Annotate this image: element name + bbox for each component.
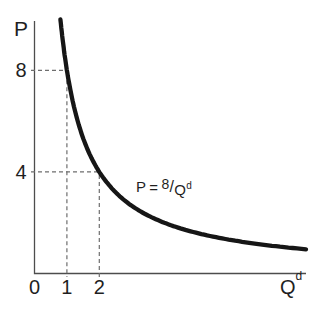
equation-equals-sign: = bbox=[149, 179, 158, 196]
equation-q-base: Q bbox=[174, 181, 186, 198]
equation-lhs: P bbox=[136, 178, 146, 195]
equation-q-superscript: d bbox=[186, 180, 192, 191]
x-tick-label-0: 0 bbox=[29, 276, 40, 299]
x-tick-label-2: 2 bbox=[94, 276, 105, 299]
x-axis-label-base: Q bbox=[280, 276, 296, 298]
x-axis-label-superscript: d bbox=[296, 269, 303, 283]
y-tick-label-4: 4 bbox=[15, 160, 26, 183]
y-axis-label: P bbox=[14, 17, 28, 41]
curve-equation-annotation: P=8/Qd bbox=[136, 178, 192, 196]
y-tick-label-8: 8 bbox=[15, 59, 26, 82]
plot-area bbox=[0, 0, 319, 312]
demand-curve-figure: P 4 8 0 1 2 Qd P=8/Qd bbox=[0, 0, 319, 312]
x-axis-label: Qd bbox=[280, 275, 302, 299]
x-tick-label-1: 1 bbox=[61, 276, 72, 299]
